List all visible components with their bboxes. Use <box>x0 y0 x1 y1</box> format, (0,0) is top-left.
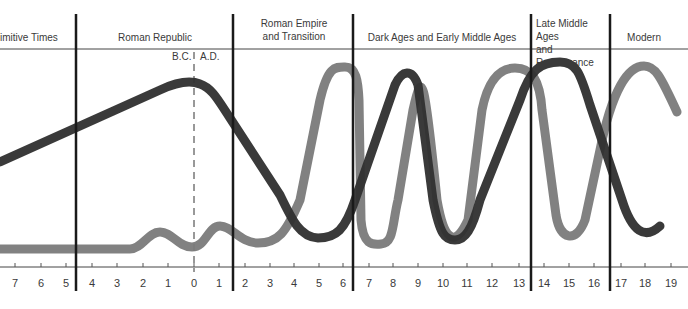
x-tick-label: 3 <box>107 277 127 289</box>
gray-curve <box>0 66 677 249</box>
x-tick-label: 2 <box>133 277 153 289</box>
x-tick-label: 1 <box>158 277 178 289</box>
x-tick-label: 4 <box>284 277 304 289</box>
x-tick-label: 7 <box>359 277 379 289</box>
era-label-dark-ages: Dark Ages and Early Middle Ages <box>357 31 527 44</box>
x-tick-label: 18 <box>635 277 655 289</box>
x-tick-label: 14 <box>534 277 554 289</box>
dark-curve <box>0 62 660 240</box>
x-tick-label: 15 <box>559 277 579 289</box>
x-tick-label: 2 <box>235 277 255 289</box>
x-tick-label: 10 <box>433 277 453 289</box>
x-tick-label: 13 <box>509 277 529 289</box>
x-tick-label: 6 <box>31 277 51 289</box>
x-tick-label: 8 <box>383 277 403 289</box>
x-axis-ticks <box>15 263 671 267</box>
era-label-roman-republic: Roman Republic <box>80 31 230 44</box>
era-label-roman-empire: Roman Empireand Transition <box>245 17 343 43</box>
x-tick-label: 12 <box>482 277 502 289</box>
x-tick-label: 5 <box>309 277 329 289</box>
x-tick-label: 11 <box>457 277 477 289</box>
x-tick-label: 19 <box>661 277 681 289</box>
x-tick-label: 0 <box>184 277 204 289</box>
era-label-modern: Modern <box>614 31 674 44</box>
ad-label: A.D. <box>200 51 219 62</box>
x-tick-label: 9 <box>408 277 428 289</box>
x-tick-label: 5 <box>56 277 76 289</box>
era-label-late-middle-ages: Late Middle Agesand Renaissance <box>534 17 612 69</box>
era-label-primitive: imitive Times <box>0 31 72 44</box>
x-tick-label: 1 <box>209 277 229 289</box>
bc-label: B.C. <box>172 51 191 62</box>
x-tick-label: 7 <box>5 277 25 289</box>
x-tick-label: 17 <box>611 277 631 289</box>
x-tick-label: 3 <box>260 277 280 289</box>
x-tick-label: 4 <box>82 277 102 289</box>
x-tick-label: 16 <box>584 277 604 289</box>
x-tick-label: 6 <box>333 277 353 289</box>
